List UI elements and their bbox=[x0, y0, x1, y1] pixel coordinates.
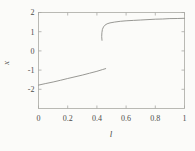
x-tick-label: 0.2 bbox=[63, 114, 73, 123]
y-tick-label: 0 bbox=[31, 47, 35, 56]
frame-rect bbox=[39, 13, 185, 109]
curve-lower-branch bbox=[39, 69, 106, 86]
plot-frame bbox=[39, 13, 185, 109]
bifurcation-diagram: 00.20.40.60.81-2-1012 l x bbox=[0, 0, 195, 151]
chart-canvas: 00.20.40.60.81-2-1012 l x bbox=[0, 0, 195, 151]
y-tick-label: 2 bbox=[31, 8, 35, 17]
x-tick-label: 0.4 bbox=[92, 114, 102, 123]
y-tick-label: 1 bbox=[31, 28, 35, 37]
x-tick-label: 0.6 bbox=[121, 114, 131, 123]
axis-ticks bbox=[39, 13, 185, 109]
x-tick-label: 0 bbox=[37, 114, 41, 123]
tick-labels: 00.20.40.60.81-2-1012 bbox=[28, 8, 187, 122]
y-tick-label: -1 bbox=[28, 66, 35, 75]
x-tick-label: 1 bbox=[183, 114, 187, 123]
curve-upper-branch bbox=[102, 18, 185, 40]
y-tick-label: -2 bbox=[28, 85, 35, 94]
curves bbox=[39, 18, 185, 85]
y-axis-label: x bbox=[1, 61, 11, 66]
x-axis-label: l bbox=[110, 129, 113, 139]
x-tick-label: 0.8 bbox=[150, 114, 160, 123]
